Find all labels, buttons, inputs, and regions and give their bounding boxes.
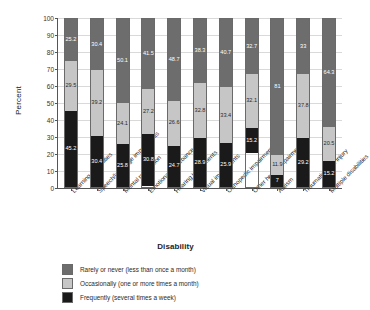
bar-segment[interactable]: 15.2	[323, 161, 335, 187]
bar-segment-value: 48.7	[169, 57, 180, 63]
bar-segment[interactable]: 25.2	[65, 19, 77, 61]
stacked-bar[interactable]: 48.726.624.7	[167, 18, 181, 188]
bar-segment[interactable]: 45.2	[65, 111, 77, 187]
legend-item[interactable]: Frequently (several times a week)	[62, 290, 312, 304]
bar-segment-value: 30.4	[91, 159, 102, 165]
bar-segment-value: 33.4	[220, 113, 231, 119]
bar-segment-value: 32.7	[246, 44, 257, 50]
bar-segment[interactable]: 32.8	[194, 83, 206, 138]
legend-item[interactable]: Rarely or never (less than once a month)	[62, 262, 312, 276]
bar-segment-value: 15.2	[246, 138, 257, 144]
bar-segment[interactable]: 25.9	[220, 143, 232, 187]
bar-segment[interactable]: 81	[271, 19, 283, 155]
bar-segment[interactable]: 30.4	[91, 19, 103, 70]
legend-color-swatch	[62, 292, 73, 303]
bar-segment-value: 45.2	[65, 146, 76, 152]
bar-segment[interactable]: 37.8	[297, 74, 309, 138]
x-axis-title: Disability	[0, 242, 351, 251]
bar-segment[interactable]: 50.1	[117, 19, 129, 103]
legend-label: Occasionally (one or more times a month)	[80, 280, 199, 287]
bar-segment-value: 64.3	[324, 70, 335, 76]
bar-segment-value: 30.4	[91, 42, 102, 48]
bar-segment[interactable]: 27.2	[142, 89, 154, 135]
bar-segment-value: 15.2	[324, 171, 335, 177]
bar-segment-value: 30.8	[143, 157, 154, 163]
y-axis-title: Percent	[14, 66, 23, 136]
bar-segment[interactable]: 32.7	[246, 19, 258, 74]
stacked-bar[interactable]: 32.732.115.2	[245, 18, 259, 188]
bar-segment[interactable]: 38.3	[194, 19, 206, 83]
bar-segment[interactable]: 20.5	[323, 127, 335, 161]
bar-segment-value: 26.6	[169, 120, 180, 126]
bar-slot: 3337.829.2	[290, 18, 316, 188]
bar-segment[interactable]: 30.8	[142, 134, 154, 186]
bar-segment-value: 40.7	[220, 50, 231, 56]
stacked-bar[interactable]: 3337.829.2	[296, 18, 310, 188]
bar-segment-value: 33	[300, 44, 306, 50]
bar-segment-value: 24.7	[169, 163, 180, 169]
bar-segment-value: 7	[276, 178, 279, 184]
bar-segment[interactable]: 25.8	[117, 144, 129, 187]
plot-area: 0102030405060708090100 25.229.545.230.43…	[57, 18, 342, 189]
bar-segment[interactable]: 24.7	[168, 146, 180, 187]
stacked-bar[interactable]: 25.229.545.2	[64, 18, 78, 188]
bar-segment-value: 81	[274, 84, 280, 90]
stacked-bar[interactable]: 8111.97	[270, 18, 284, 188]
bar-segment[interactable]: 29.2	[297, 138, 309, 187]
stacked-bar[interactable]: 64.320.515.2	[322, 18, 336, 188]
legend-color-swatch	[62, 264, 73, 275]
bar-segment[interactable]: 39.2	[91, 70, 103, 136]
bar-segment[interactable]: 33.4	[220, 87, 232, 143]
legend-label: Frequently (several times a week)	[80, 294, 176, 301]
bar-segment-value: 24.1	[117, 121, 128, 127]
bar-segment-value: 25.8	[117, 163, 128, 169]
bar-segment-value: 25.2	[65, 37, 76, 43]
bar-segment[interactable]: 29.5	[65, 61, 77, 111]
stacked-bar[interactable]: 41.527.230.8	[141, 18, 155, 188]
legend-item[interactable]: Occasionally (one or more times a month)	[62, 276, 312, 290]
bar-segment[interactable]: 28.9	[194, 138, 206, 187]
bar-segment-value: 32.1	[246, 98, 257, 104]
bar-group: 25.229.545.230.439.230.450.124.125.841.5…	[58, 18, 342, 188]
bar-segment-value: 32.8	[195, 108, 206, 114]
bar-segment[interactable]: 7	[271, 175, 283, 187]
bar-segment-value: 29.2	[298, 160, 309, 166]
chart-legend: Rarely or never (less than once a month)…	[62, 262, 312, 304]
bar-slot: 25.229.545.2	[58, 18, 84, 188]
bar-segment[interactable]: 64.3	[323, 19, 335, 127]
bar-segment-value: 50.1	[117, 58, 128, 64]
bar-segment[interactable]: 33	[297, 19, 309, 74]
bar-segment[interactable]: 32.1	[246, 74, 258, 128]
bar-segment-value: 37.8	[298, 103, 309, 109]
bar-segment-value: 20.5	[324, 141, 335, 147]
bar-segment[interactable]: 11.9	[271, 155, 283, 175]
bar-segment[interactable]: 40.7	[220, 19, 232, 87]
bar-segment[interactable]: 41.5	[142, 19, 154, 89]
bar-segment-value: 28.9	[195, 160, 206, 166]
stacked-bar[interactable]: 40.733.425.9	[219, 18, 233, 188]
bar-segment-value: 41.5	[143, 51, 154, 57]
bar-segment-value: 25.9	[220, 162, 231, 168]
legend-label: Rarely or never (less than once a month)	[80, 266, 196, 273]
bar-segment-value: 38.3	[195, 48, 206, 54]
bar-segment[interactable]: 24.1	[117, 103, 129, 143]
bar-segment-value: 11.9	[272, 162, 282, 168]
bar-segment[interactable]: 15.2	[246, 128, 258, 154]
stacked-bar[interactable]: 50.124.125.8	[116, 18, 130, 188]
stacked-bar[interactable]: 30.439.230.4	[90, 18, 104, 188]
x-axis-category-labels: Learning disabilitiesSpeech/language imp…	[57, 189, 341, 241]
bar-segment-value: 29.5	[65, 83, 76, 89]
legend-color-swatch	[62, 278, 73, 289]
bar-segment-value: 39.2	[91, 100, 102, 106]
stacked-bar[interactable]: 38.332.828.9	[193, 18, 207, 188]
bar-segment[interactable]: 26.6	[168, 101, 180, 146]
bar-segment[interactable]: 30.4	[91, 136, 103, 187]
bar-segment-value: 27.2	[143, 109, 154, 115]
bar-segment[interactable]: 48.7	[168, 19, 180, 101]
